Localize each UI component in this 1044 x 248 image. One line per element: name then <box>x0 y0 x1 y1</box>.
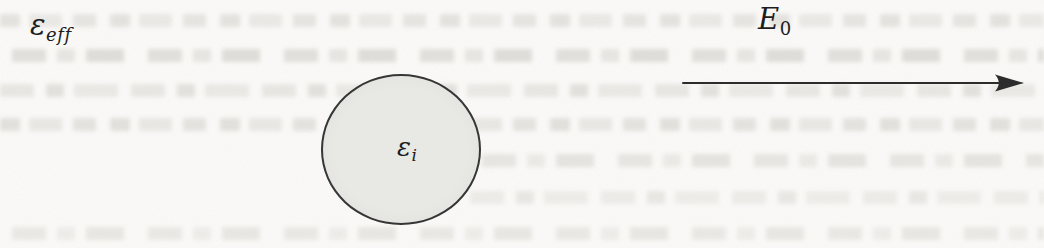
inclusion-sphere: εi <box>321 74 481 225</box>
e-symbol: E <box>758 2 780 36</box>
epsilon-eff-label: εeff <box>30 8 72 42</box>
i-subscript: i <box>411 145 417 165</box>
ghost-text-line <box>0 84 1044 97</box>
paper-grain-texture <box>0 0 1044 248</box>
ghost-text-line <box>0 14 1044 27</box>
scanned-figure-page: εeff E0 εi <box>0 0 1044 248</box>
e0-field-label: E0 <box>758 2 792 36</box>
eff-subscript: eff <box>46 24 71 45</box>
ghost-text-line <box>0 227 1044 240</box>
epsilon-symbol: ε <box>30 8 46 42</box>
ghost-text-line <box>0 118 1044 131</box>
epsilon-symbol: ε <box>397 132 411 162</box>
ghost-text-line <box>0 49 1044 62</box>
epsilon-i-label: εi <box>397 132 417 162</box>
ghost-text-line <box>470 191 1044 204</box>
ghost-text-line <box>470 154 1044 167</box>
zero-subscript: 0 <box>780 18 792 39</box>
field-arrowhead-icon <box>995 73 1024 93</box>
field-arrow-shaft <box>682 82 1004 84</box>
